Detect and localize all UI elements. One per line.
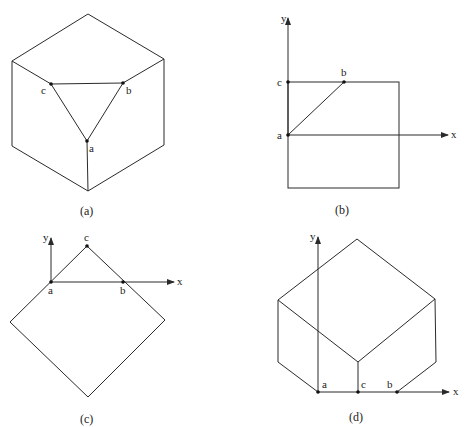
caption-a: (a): [80, 204, 93, 218]
label-a: a: [322, 378, 327, 390]
point-c: [286, 80, 290, 84]
caption-b: (b): [335, 203, 349, 217]
panel-b: y x c b a (b): [277, 12, 457, 217]
panel-a: c b a (a): [12, 14, 164, 218]
label-a: a: [277, 129, 282, 141]
label-b: b: [341, 66, 347, 78]
label-c: c: [41, 84, 46, 96]
label-c: c: [361, 378, 366, 390]
caption-c: (c): [80, 412, 93, 426]
point-a: [316, 390, 320, 394]
point-c: [49, 82, 53, 86]
label-a: a: [89, 142, 94, 154]
y-axis-label: y: [281, 12, 287, 24]
caption-d: (d): [349, 410, 363, 424]
x-axis-label: x: [451, 128, 457, 140]
triangle-abc: [51, 83, 123, 141]
rotated-square: [10, 246, 165, 397]
figure-canvas: c b a (a) y x c b a (b) y x c a b (c): [0, 0, 469, 427]
point-c: [85, 244, 89, 248]
panel-c: y x c a b (c): [10, 231, 183, 426]
x-axis-label: x: [453, 385, 459, 397]
point-c: [356, 390, 360, 394]
point-b: [395, 390, 399, 394]
cube-outline: [12, 14, 164, 191]
panel-d: y x a c b (d): [278, 230, 459, 424]
y-axis-label: y: [43, 231, 49, 243]
point-b: [121, 81, 125, 85]
label-c: c: [84, 231, 89, 243]
label-a: a: [48, 284, 53, 296]
label-b: b: [120, 284, 126, 296]
line-ab: [288, 82, 344, 135]
label-c: c: [277, 76, 282, 88]
label-b: b: [387, 378, 393, 390]
x-axis-label: x: [177, 275, 183, 287]
point-b: [342, 80, 346, 84]
label-b: b: [126, 84, 132, 96]
cube-outline: [278, 239, 436, 392]
y-axis-label: y: [310, 230, 316, 242]
point-a: [286, 133, 290, 137]
